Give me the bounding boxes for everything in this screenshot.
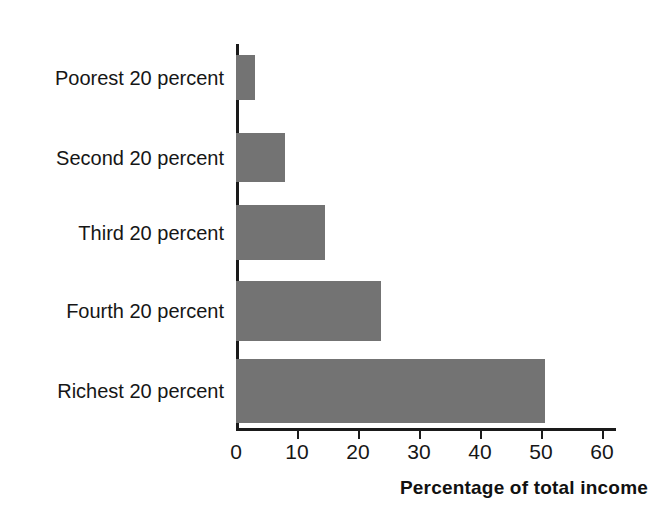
bar-row xyxy=(236,55,602,100)
y-axis-tick-label: Second 20 percent xyxy=(10,148,236,168)
bar-chart: Poorest 20 percentSecond 20 percentThird… xyxy=(0,0,666,521)
x-axis-tick-label: 0 xyxy=(230,441,242,462)
x-axis-tick xyxy=(358,428,360,439)
x-axis-tick xyxy=(480,428,482,439)
bar xyxy=(236,55,255,100)
y-axis-tick-label: Fourth 20 percent xyxy=(10,301,236,321)
y-axis-tick-label: Third 20 percent xyxy=(10,223,236,243)
bar-row xyxy=(236,281,602,341)
x-axis-tick xyxy=(297,428,299,439)
bar xyxy=(236,133,285,182)
x-axis-tick-label: 30 xyxy=(407,441,430,462)
x-axis-tick xyxy=(419,428,421,439)
bar-row xyxy=(236,133,602,182)
x-axis-tick-label: 20 xyxy=(346,441,369,462)
bar xyxy=(236,205,325,260)
bar xyxy=(236,359,545,423)
bar xyxy=(236,281,381,341)
x-axis-tick-label: 50 xyxy=(529,441,552,462)
y-axis-tick-label: Richest 20 percent xyxy=(10,381,236,401)
y-axis-tick-label: Poorest 20 percent xyxy=(10,68,236,88)
x-axis-line xyxy=(236,428,616,431)
x-axis-tick-label: 40 xyxy=(468,441,491,462)
y-axis-labels: Poorest 20 percentSecond 20 percentThird… xyxy=(0,44,236,428)
x-axis-tick-label: 60 xyxy=(590,441,613,462)
plot-area xyxy=(236,44,602,428)
x-axis-tick-label: 10 xyxy=(285,441,308,462)
x-axis-title: Percentage of total income xyxy=(0,477,648,499)
x-axis-tick xyxy=(541,428,543,439)
bar-row xyxy=(236,205,602,260)
bar-row xyxy=(236,359,602,423)
x-axis-tick xyxy=(602,428,604,439)
